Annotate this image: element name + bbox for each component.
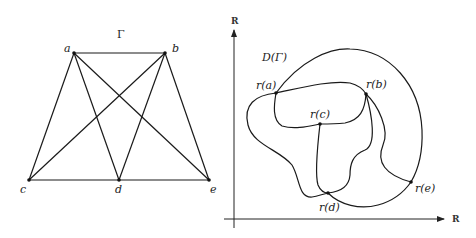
vertex-a: [72, 51, 76, 55]
curve-b-e: [366, 94, 411, 182]
point-rc: [318, 122, 322, 126]
figure-canvas: Γ a b c d e R R D(Γ) r(a): [0, 0, 476, 238]
point-label-ra: r(a): [256, 79, 276, 92]
point-label-rb: r(b): [366, 78, 387, 91]
point-rb: [364, 92, 368, 96]
point-rd: [326, 191, 330, 195]
vertex-e: [207, 178, 211, 182]
point-label-re: r(e): [415, 182, 435, 195]
curve-d-e: [328, 182, 411, 207]
vertex-label-c: c: [20, 183, 26, 196]
drawing-d-gamma: R R D(Γ) r(a) r(b) r(c) r(d) r(e): [224, 16, 460, 228]
curve-a-e: [276, 49, 422, 182]
curve-b-d: [328, 94, 372, 193]
curve-c-d: [317, 124, 328, 193]
vertex-d: [117, 178, 121, 182]
point-re: [409, 180, 413, 184]
point-label-rd: r(d): [319, 201, 340, 214]
x-axis-label: R: [452, 214, 460, 224]
edge-b-e: [165, 53, 209, 180]
edge-a-c: [29, 53, 74, 180]
vertex-c: [27, 178, 31, 182]
y-axis-label: R: [231, 16, 239, 26]
graph-title: Γ: [117, 28, 125, 41]
vertex-label-e: e: [210, 183, 217, 196]
vertex-b: [163, 51, 167, 55]
drawing-title: D(Γ): [261, 51, 287, 64]
edge-b-d: [119, 53, 165, 180]
graph-gamma: Γ a b c d e: [20, 28, 217, 196]
vertex-label-b: b: [172, 42, 179, 55]
vertex-label-d: d: [115, 183, 122, 196]
curve-a-b: [276, 82, 366, 94]
point-label-rc: r(c): [310, 108, 330, 121]
edge-b-c: [29, 53, 165, 180]
vertex-label-a: a: [64, 42, 71, 55]
